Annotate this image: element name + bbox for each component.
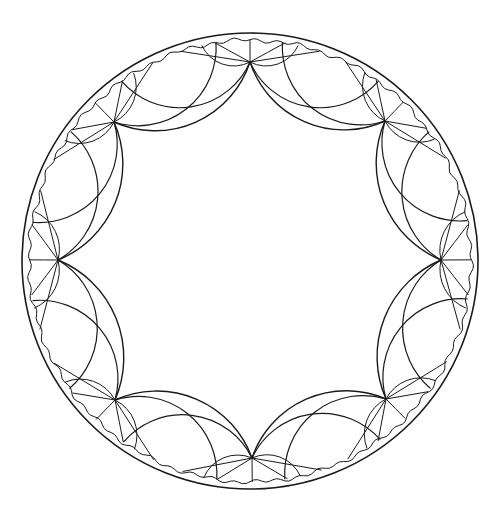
fan-cap-arc: [58, 132, 98, 260]
fan-cap-arc: [123, 415, 252, 458]
fan-inner-arc: [114, 73, 136, 122]
fan-line: [441, 190, 459, 260]
fan-inner-arc: [364, 399, 386, 448]
disk-boundary: [22, 33, 478, 489]
geodesic-edge: [376, 121, 441, 260]
geodesic-edge: [58, 260, 124, 400]
fan-line: [441, 260, 460, 329]
fan-line: [385, 102, 403, 121]
fan-inner-arc: [204, 455, 252, 477]
boundary-fringe: [28, 38, 474, 484]
fan-inner-arc: [115, 400, 137, 449]
fan-line: [96, 400, 115, 420]
fan-cap-arc: [122, 62, 250, 108]
fan-cap-arc: [33, 300, 118, 400]
fan-cap-arc: [115, 396, 217, 479]
geodesic-edge: [58, 122, 123, 260]
fan-inner-arc: [386, 378, 436, 399]
hyperbolic-tiling-diagram: [0, 0, 502, 516]
fan-line: [41, 190, 58, 260]
fan-cap-arc: [114, 43, 216, 126]
geodesic-edge: [377, 260, 441, 399]
fan-line: [95, 103, 114, 122]
fan-cap-arc: [402, 132, 441, 260]
vertex-fans: [29, 40, 471, 482]
fan-cap-arc: [250, 62, 378, 108]
fan-inner-arc: [252, 455, 300, 476]
fan-line: [40, 260, 58, 329]
geodesic-edge: [114, 62, 250, 131]
fan-inner-arc: [362, 72, 385, 121]
fan-line: [386, 399, 405, 418]
